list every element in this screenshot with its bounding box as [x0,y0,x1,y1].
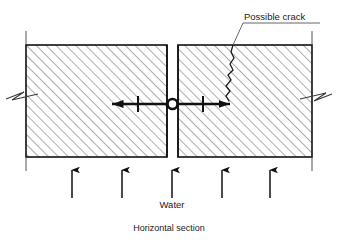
possible-crack-label: Possible crack [244,11,305,22]
crack-leader-diagonal [233,23,243,45]
concrete-block-right [178,45,312,157]
crack-callout-leader [233,23,320,45]
waterstop-circle [168,99,178,109]
left-block-hatch-fill [26,45,167,157]
diagram-canvas: Possible crack Water Horizontal section [0,0,338,245]
engineering-diagram-figure: Possible crack Water Horizontal section [0,0,338,245]
right-block-hatch-fill [178,45,312,157]
concrete-block-left [26,45,167,157]
water-pressure-arrows [72,170,270,198]
figure-caption: Horizontal section [133,223,205,233]
water-label: Water [160,199,185,210]
